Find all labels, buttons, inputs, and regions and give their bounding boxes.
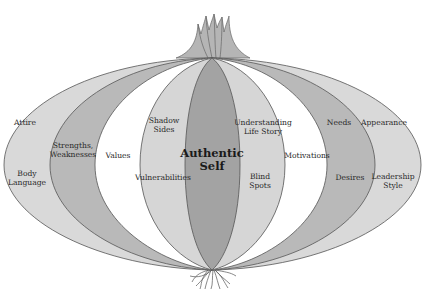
label-understanding-life-story: Understanding Life Story: [234, 118, 292, 136]
onion-stem-icon: [176, 14, 250, 58]
label-appearance: Appearance: [361, 118, 407, 127]
label-blind-spots: Blind Spots: [249, 172, 271, 190]
label-style: Style: [371, 181, 414, 190]
label-understanding: Understanding: [234, 118, 292, 127]
label-body-language-line1: Body: [8, 169, 46, 178]
label-shadow-sides: Shadow Sides: [149, 116, 180, 134]
onion-roots-icon: [190, 270, 236, 289]
label-strengths-weaknesses: Strengths, Weaknesses: [50, 141, 96, 159]
label-spots: Spots: [249, 181, 271, 190]
core-label-line2: Self: [180, 160, 243, 173]
label-life-story: Life Story: [234, 127, 292, 136]
core-label: Authentic Self: [180, 147, 243, 173]
label-motivations: Motivations: [284, 151, 330, 160]
label-leadership-style: Leadership Style: [371, 172, 414, 190]
label-weaknesses: Weaknesses: [50, 150, 96, 159]
label-strengths: Strengths,: [50, 141, 96, 150]
label-desires: Desires: [336, 173, 365, 182]
label-values: Values: [105, 151, 130, 160]
label-shadow: Shadow: [149, 116, 180, 125]
label-sides: Sides: [149, 125, 180, 134]
label-body-language: Body Language: [8, 169, 46, 187]
label-needs: Needs: [327, 118, 351, 127]
label-leadership: Leadership: [371, 172, 414, 181]
onion-diagram: Authentic Self Attire Body Language Stre…: [0, 0, 425, 289]
label-body-language-line2: Language: [8, 178, 46, 187]
label-blind: Blind: [249, 172, 271, 181]
label-attire: Attire: [14, 118, 36, 127]
label-vulnerabilities: Vulnerabilities: [135, 173, 191, 182]
